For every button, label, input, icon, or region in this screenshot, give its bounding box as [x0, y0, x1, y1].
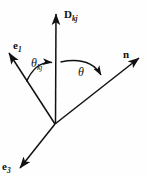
D-vector-label-subscript: kj: [72, 14, 77, 23]
D-vector-arrow: [56, 14, 57, 124]
vector-angle-diagram: Dkj e1 n e3 θkj θ: [0, 0, 148, 178]
e3-vector-label: e3: [2, 161, 10, 175]
theta-kj-label: θkj: [31, 57, 42, 72]
D-vector-label-base: D: [64, 8, 72, 20]
n-vector-label: n: [123, 49, 129, 63]
e1-vector-label-subscript: 1: [18, 45, 22, 54]
diagram-canvas: [0, 0, 148, 178]
theta-kj-label-subscript: kj: [37, 63, 42, 72]
e3-vector-label-subscript: 3: [7, 166, 11, 175]
n-vector-label-base: n: [123, 48, 129, 60]
n-vector-arrow: [55, 58, 139, 124]
theta-label-base: θ: [78, 65, 84, 79]
e3-vector-arrow: [20, 124, 55, 168]
e1-vector-label: e1: [13, 40, 21, 54]
theta-label: θ: [78, 66, 84, 81]
D-vector-label: Dkj: [64, 9, 77, 23]
